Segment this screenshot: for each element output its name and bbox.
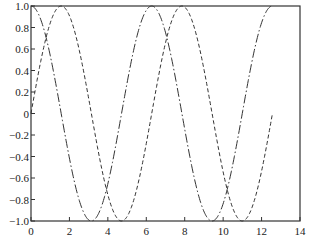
- sin-curve: [31, 6, 272, 221]
- x-tick-label: 0: [28, 225, 34, 237]
- y-tick-label: 0.4: [15, 65, 29, 77]
- x-tick-label: 12: [256, 225, 267, 237]
- y-tick-label: −0.2: [9, 129, 29, 141]
- y-tick-label: −0.6: [9, 172, 29, 184]
- x-tick-label: 6: [144, 225, 150, 237]
- x-tick-label: 4: [105, 225, 111, 237]
- y-tick-label: 0.6: [15, 43, 29, 55]
- y-tick-label: 0.2: [15, 86, 29, 98]
- x-tick-label: 8: [182, 225, 188, 237]
- x-axis: 02468101214: [28, 217, 306, 237]
- x-tick-label: 14: [295, 225, 307, 237]
- y-tick-label: 1.0: [15, 0, 29, 12]
- y-tick-label: −0.8: [9, 194, 29, 206]
- y-tick-label: 0.8: [15, 22, 29, 34]
- line-chart: 02468101214 1.00.80.60.40.20−0.2−0.4−0.6…: [0, 0, 309, 245]
- y-tick-label: −0.4: [9, 151, 29, 163]
- x-tick-label: 10: [218, 225, 230, 237]
- cos-curve: [31, 6, 272, 221]
- y-tick-label: −1.0: [9, 215, 29, 227]
- plot-curves: [31, 6, 272, 221]
- axes-frame: [31, 6, 300, 221]
- y-tick-label: 0: [24, 108, 30, 120]
- x-tick-label: 2: [67, 225, 73, 237]
